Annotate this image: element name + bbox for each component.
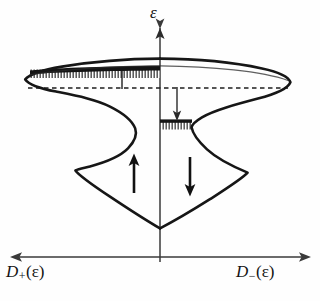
dos-left-symbol: D [6, 262, 18, 281]
energy-axis-label: ε [150, 4, 157, 21]
filled-band-spin-down [160, 119, 192, 129]
spin-up-arrow [129, 153, 140, 193]
spin-down-arrow [185, 157, 196, 197]
dos-right-symbol: D [236, 262, 248, 281]
dos-curve-spin-down [160, 59, 290, 229]
dos-axis-label-right: D−(ε) [236, 263, 275, 282]
dos-figure: ε D+(ε) D−(ε) [0, 0, 320, 301]
dos-right-argument: (ε) [256, 262, 274, 281]
dos-right-subscript: − [248, 269, 256, 283]
electron-transfer-arrow [173, 87, 181, 121]
dos-axis-label-left: D+(ε) [6, 263, 45, 282]
dos-curve-spin-up [25, 59, 160, 229]
dos-left-argument: (ε) [26, 262, 44, 281]
figure-canvas [0, 0, 320, 301]
dos-left-subscript: + [18, 269, 26, 283]
filled-band-spin-down-solid [160, 119, 192, 122]
